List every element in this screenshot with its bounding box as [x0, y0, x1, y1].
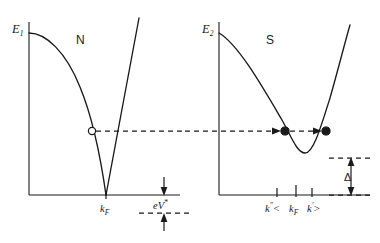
figure-root: E1 N kF eV* E2 S: [0, 0, 380, 243]
super-filled-circle-marker-right: [322, 127, 330, 135]
gap-delta-label: Δ: [344, 171, 352, 183]
ev-arrow-lower-head: [161, 213, 168, 222]
panel-normal: E1 N kF eV*: [11, 18, 193, 231]
dispersion-figure: E1 N kF eV* E2 S: [0, 0, 380, 243]
super-y-axis-label: E2: [201, 22, 214, 38]
super-kprime-label: k′>: [307, 201, 320, 214]
normal-open-circle-marker: [88, 127, 95, 134]
normal-kf-tick-label: kF: [100, 203, 110, 217]
ev-annotation-label: eV*: [153, 198, 168, 211]
normal-state-label: N: [76, 33, 85, 47]
super-state-label: S: [266, 33, 274, 47]
normal-y-axis-label: E1: [11, 22, 23, 38]
normal-lower-branch-curve: [29, 33, 106, 195]
super-left-arrow-head: [272, 127, 281, 134]
normal-upper-branch-curve: [106, 18, 139, 195]
super-kf-label: kF: [289, 203, 299, 217]
panel-superconducting: E2 S k″< kF k′> Δ: [185, 22, 374, 217]
super-filled-circle-marker-left: [281, 127, 289, 135]
super-kdoubleprime-label: k″<: [265, 201, 280, 214]
